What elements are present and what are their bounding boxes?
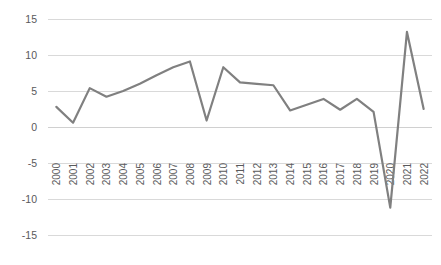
x-axis-tick-label: 2003: [101, 163, 112, 186]
x-axis-tick-label: 2022: [419, 163, 430, 186]
x-axis-tick-label: 2019: [369, 163, 380, 186]
x-axis-tick-label: 2000: [51, 163, 62, 186]
x-axis-tick-label: 2018: [352, 163, 363, 186]
y-axis-tick-labels: 151050-5-10-15: [22, 13, 37, 241]
x-axis-tick-label: 2021: [402, 163, 413, 186]
x-axis-tick-label: 2006: [152, 163, 163, 186]
line-chart: 151050-5-10-15 2000200120022003200420052…: [0, 0, 441, 265]
x-axis-tick-label: 2010: [218, 163, 229, 186]
y-axis-tick-label: 10: [25, 49, 37, 61]
x-axis-tick-label: 2014: [285, 163, 296, 186]
x-axis-tick-label: 2013: [268, 163, 279, 186]
x-axis-tick-label: 2008: [185, 163, 196, 186]
x-axis-tick-label: 2017: [335, 163, 346, 186]
x-axis-tick-labels: 2000200120022003200420052006200720082009…: [51, 163, 429, 186]
y-axis-tick-label: -5: [28, 157, 37, 169]
x-axis-tick-label: 2005: [135, 163, 146, 186]
x-axis-tick-label: 2016: [318, 163, 329, 186]
y-axis-tick-label: 15: [25, 13, 37, 25]
y-axis-tick-label: -10: [22, 193, 37, 205]
x-axis-tick-label: 2011: [235, 163, 246, 185]
x-axis-tick-label: 2007: [168, 163, 179, 186]
y-axis-tick-label: 5: [31, 85, 37, 97]
x-axis-tick-label: 2015: [302, 163, 313, 186]
chart-canvas: 151050-5-10-15 2000200120022003200420052…: [0, 0, 441, 265]
x-axis-tick-label: 2012: [252, 163, 263, 186]
x-axis-tick-label: 2001: [68, 163, 79, 186]
y-axis-tick-label: 0: [31, 121, 37, 133]
x-axis-tick-label: 2002: [85, 163, 96, 186]
x-axis-tick-label: 2009: [202, 163, 213, 186]
y-axis-tick-label: -15: [22, 229, 37, 241]
gridlines: [48, 20, 432, 236]
x-axis-tick-label: 2004: [118, 163, 129, 186]
